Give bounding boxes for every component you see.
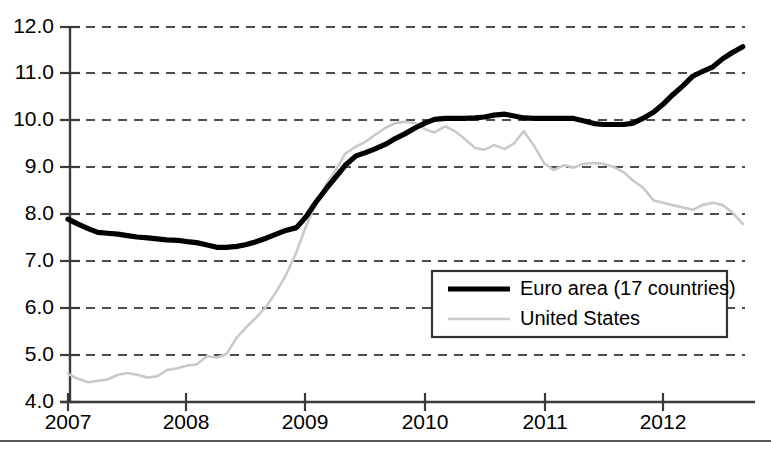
legend-label-euro-area: Euro area (17 countries) (520, 277, 736, 299)
x-tick-label-2011: 2011 (522, 410, 567, 433)
unemployment-rate-line-chart: 12.0 11.0 10.0 9.0 8.0 7.0 6.0 5.0 4.0 2… (0, 0, 771, 453)
legend-label-united-states: United States (520, 307, 640, 329)
series-line-united-states (68, 122, 743, 383)
y-tick-label-8: 8.0 (25, 201, 54, 224)
x-tick-label-2007: 2007 (45, 410, 92, 433)
y-tick-label-9: 9.0 (25, 154, 54, 177)
x-tick-label-2008: 2008 (163, 410, 210, 433)
y-tick-label-10: 10.0 (13, 107, 54, 130)
x-axis: 2007 2008 2009 2010 2011 2012 (45, 393, 755, 433)
y-axis: 12.0 11.0 10.0 9.0 8.0 7.0 6.0 5.0 4.0 (13, 14, 80, 412)
y-tick-label-11: 11.0 (15, 60, 54, 83)
legend: Euro area (17 countries) United States (432, 271, 736, 337)
y-tick-label-7: 7.0 (25, 248, 54, 271)
y-tick-label-5: 5.0 (25, 342, 54, 365)
x-tick-label-2009: 2009 (282, 410, 329, 433)
y-tick-label-12: 12.0 (13, 14, 54, 37)
x-tick-label-2010: 2010 (402, 410, 449, 433)
series-line-euro-area (68, 47, 743, 248)
x-tick-label-2012: 2012 (640, 410, 687, 433)
chart-canvas: 12.0 11.0 10.0 9.0 8.0 7.0 6.0 5.0 4.0 2… (0, 0, 771, 453)
y-tick-label-4: 4.0 (25, 389, 54, 412)
y-tick-label-6: 6.0 (25, 295, 54, 318)
